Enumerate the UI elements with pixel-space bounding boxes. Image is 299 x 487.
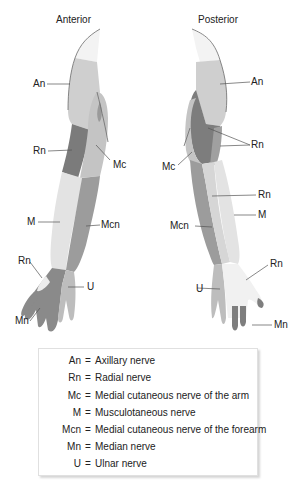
posterior-label-axillary: An — [251, 77, 263, 87]
anterior-label-median: Mn — [15, 316, 29, 326]
anterior-label-ulnar: U — [87, 282, 94, 292]
anterior-label-radial: Rn — [33, 146, 46, 156]
legend-equals: = — [85, 457, 91, 471]
legend-desc: Medial cutaneous nerve of the forearm — [95, 423, 266, 437]
anterior-label-musculocutaneous: M — [27, 217, 35, 227]
legend-desc: Median nerve — [95, 440, 156, 454]
legend-abbr: U — [39, 457, 81, 471]
anterior-label-radial-hand: Rn — [18, 256, 31, 266]
anterior-arm — [21, 29, 108, 332]
anterior-shoulder-region — [75, 29, 100, 62]
legend-desc: Ulnar nerve — [95, 457, 147, 471]
posterior-label-medial-cutaneous-forearm: Mcn — [170, 221, 189, 231]
legend-abbr: M — [39, 406, 81, 420]
legend-desc: Medial cutaneous nerve of the arm — [95, 389, 249, 403]
legend-equals: = — [85, 371, 91, 385]
legend-desc: Radial nerve — [95, 371, 151, 385]
legend-box: An = Axillary nerve Rn = Radial nerve Mc… — [38, 348, 258, 476]
legend-equals: = — [85, 389, 91, 403]
posterior-label-ulnar: U — [196, 284, 203, 294]
legend-equals: = — [85, 440, 91, 454]
posterior-shoulder-region — [192, 29, 220, 62]
legend-desc: Axillary nerve — [95, 354, 155, 368]
posterior-label-radial-hand: Rn — [270, 259, 283, 269]
anterior-label-medial-cutaneous-arm: Mc — [113, 160, 126, 170]
legend-abbr: An — [39, 354, 81, 368]
posterior-label-radial: Rn — [251, 140, 264, 150]
posterior-label-musculocutaneous: M — [258, 210, 266, 220]
legend-abbr: Mc — [39, 389, 81, 403]
anterior-label-medial-cutaneous-forearm: Mcn — [101, 220, 120, 230]
legend-equals: = — [85, 423, 91, 437]
posterior-label-medial-cutaneous-arm: Mc — [162, 162, 175, 172]
posterior-median-thumbtip-region — [257, 298, 263, 308]
legend-desc: Musculotaneous nerve — [95, 406, 196, 420]
anterior-label-axillary: An — [33, 79, 45, 89]
legend-abbr: Rn — [39, 371, 81, 385]
legend-abbr: Mn — [39, 440, 81, 454]
legend-equals: = — [85, 406, 91, 420]
posterior-label-radial-forearm: Rn — [258, 190, 271, 200]
posterior-label-median: Mn — [274, 320, 288, 330]
legend-equals: = — [85, 354, 91, 368]
legend-abbr: Mcn — [39, 423, 81, 437]
